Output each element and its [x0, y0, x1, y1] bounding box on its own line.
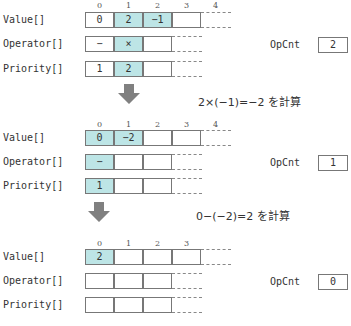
value-cell: 0: [85, 130, 114, 146]
value-cell: [172, 249, 201, 265]
index-label: 3: [172, 239, 201, 248]
priority-cell: [143, 297, 172, 313]
array-extension: [172, 273, 202, 289]
index-label: 1: [114, 120, 143, 129]
index-label: 2: [143, 120, 172, 129]
operator-array-label: Operator[]: [3, 275, 63, 287]
array-extension: [201, 249, 231, 265]
down-arrow-icon: [118, 84, 140, 104]
array-extension: [201, 12, 231, 28]
opcnt-value: 1: [318, 155, 348, 171]
opcnt-label: OpCnt: [270, 39, 300, 50]
index-label: 4: [201, 1, 230, 10]
index-label: 0: [85, 239, 114, 248]
index-label: 1: [114, 239, 143, 248]
operator-cell: [114, 154, 143, 170]
calculation-text: 0−(−2)=2 を計算: [196, 207, 290, 223]
value-cell: −1: [143, 12, 172, 28]
index-label: 1: [114, 1, 143, 10]
value-cell: [143, 130, 172, 146]
index-label: 4: [201, 120, 230, 129]
priority-cell: 2: [114, 61, 143, 77]
priority-cell: [114, 178, 143, 194]
priority-cell: [143, 178, 172, 194]
value-cell: −2: [114, 130, 143, 146]
operator-cell: ×: [114, 36, 143, 52]
priority-cell: [114, 297, 143, 313]
index-label: 3: [172, 120, 201, 129]
value-cell: [172, 130, 201, 146]
value-cell: 0: [85, 12, 114, 28]
array-extension: [172, 36, 202, 52]
operator-array-label: Operator[]: [3, 156, 63, 168]
value-array-label: Value[]: [3, 132, 45, 144]
calculation-text: 2×(−1)=−2 を計算: [198, 93, 301, 109]
value-cell: [143, 249, 172, 265]
opcnt-value: 0: [318, 274, 348, 290]
operator-cell: −: [85, 154, 114, 170]
operator-cell: [143, 36, 172, 52]
value-array-label: Value[]: [3, 251, 45, 263]
index-label: 3: [172, 1, 201, 10]
value-cell: [114, 249, 143, 265]
opcnt-value: 2: [318, 37, 348, 53]
operator-cell: [143, 273, 172, 289]
priority-cell: [143, 61, 172, 77]
priority-cell: [85, 297, 114, 313]
value-cell: 2: [114, 12, 143, 28]
index-label: 2: [143, 239, 172, 248]
array-extension: [172, 154, 202, 170]
array-extension: [172, 61, 202, 77]
priority-array-label: Priority[]: [3, 299, 63, 311]
index-label: 2: [143, 1, 172, 10]
value-array-label: Value[]: [3, 14, 45, 26]
array-extension: [201, 130, 231, 146]
array-extension: [172, 297, 202, 313]
operator-cell: [114, 273, 143, 289]
operator-array-label: Operator[]: [3, 38, 63, 50]
array-extension: [172, 178, 202, 194]
priority-cell: 1: [85, 178, 114, 194]
opcnt-label: OpCnt: [270, 157, 300, 168]
opcnt-label: OpCnt: [270, 276, 300, 287]
priority-array-label: Priority[]: [3, 63, 63, 75]
priority-cell: 1: [85, 61, 114, 77]
value-cell: [172, 12, 201, 28]
down-arrow-icon: [88, 202, 110, 222]
index-label: 0: [85, 120, 114, 129]
priority-array-label: Priority[]: [3, 180, 63, 192]
value-cell: 2: [85, 249, 114, 265]
operator-cell: [85, 273, 114, 289]
operator-cell: −: [85, 36, 114, 52]
operator-cell: [143, 154, 172, 170]
index-label: 0: [85, 1, 114, 10]
